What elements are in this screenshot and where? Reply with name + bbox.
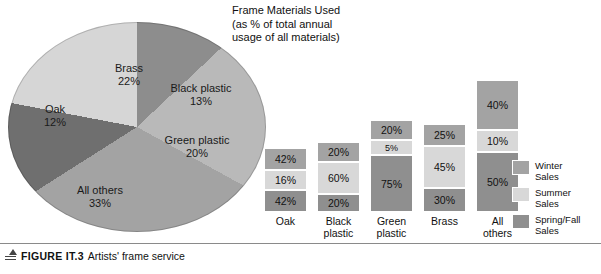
legend-label-summer: Summer Sales [535, 187, 571, 209]
legend-item-summer-sales: Summer Sales [512, 187, 598, 209]
bar-label-green-plastic-line1: Green [364, 215, 419, 227]
chart-title-line1: Frame Materials Used [232, 4, 408, 18]
legend-label-winter: Winter Sales [535, 160, 562, 182]
bar-column-black-plastic: 20% 60% 20% Black plastic [317, 142, 360, 212]
bar-label-oak-line1: Oak [258, 215, 313, 227]
bar-label-black-plastic: Black plastic [311, 215, 366, 239]
bar-segment-all-others-winter: 40% [476, 80, 519, 130]
bar-segment-green-plastic-summer: 5% [370, 140, 413, 155]
bar-segment-brass-springfall: 30% [423, 188, 466, 212]
legend-label-spring-fall-line1: Spring/Fall [535, 214, 580, 225]
bar-label-green-plastic-line2: plastic [364, 227, 419, 239]
pie-slice-label-green-plastic: Green plastic 20% [154, 134, 240, 160]
pie-label-black-plastic-value: 13% [158, 95, 244, 108]
pie-label-oak-value: 12% [30, 116, 80, 129]
bar-label-oak: Oak [258, 215, 313, 227]
bar-label-green-plastic: Green plastic [364, 215, 419, 239]
bar-segment-all-others-summer: 10% [476, 130, 519, 152]
figure-number: FIGURE IT.3 [21, 250, 84, 262]
figure-caption: FIGURE IT.3 Artists' frame service [4, 249, 185, 262]
bar-segment-brass-summer: 45% [423, 146, 466, 188]
pie-slice-label-brass: Brass 22% [94, 62, 164, 88]
bar-segment-brass-winter: 25% [423, 124, 466, 146]
chart-legend: Winter Sales Summer Sales Spring/Fall Sa… [512, 160, 598, 241]
pie-label-brass-value: 22% [94, 75, 164, 88]
bar-segment-oak-winter: 42% [264, 148, 307, 170]
pie-slice-label-oak: Oak 12% [30, 103, 80, 129]
figure-marker-icon [4, 249, 17, 262]
pie-label-green-plastic-text: Green plastic [165, 134, 230, 146]
bar-segment-green-plastic-springfall: 75% [370, 155, 413, 212]
pie-label-brass-text: Brass [115, 62, 143, 74]
bar-label-black-plastic-line1: Black [311, 215, 366, 227]
bar-label-brass: Brass [417, 215, 472, 227]
pie-label-oak-text: Oak [45, 103, 65, 115]
legend-swatch-winter-icon [512, 160, 530, 175]
bar-column-oak: 42% 16% 42% Oak [264, 148, 307, 212]
bar-column-brass: 25% 45% 30% Brass [423, 124, 466, 212]
bar-segment-oak-springfall: 42% [264, 190, 307, 212]
legend-label-summer-line2: Sales [535, 198, 559, 209]
legend-label-summer-line1: Summer [535, 187, 571, 198]
bar-segment-green-plastic-winter: 20% [370, 120, 413, 140]
legend-label-winter-line2: Sales [535, 171, 559, 182]
bar-segment-black-plastic-winter: 20% [317, 142, 360, 162]
legend-label-winter-line1: Winter [535, 160, 562, 171]
pie-label-all-others-text: All others [77, 184, 123, 196]
pie-label-black-plastic-text: Black plastic [170, 82, 231, 94]
bar-segment-black-plastic-summer: 60% [317, 162, 360, 194]
bar-segment-black-plastic-springfall: 20% [317, 194, 360, 212]
pie-slice-label-black-plastic: Black plastic 13% [158, 82, 244, 108]
legend-label-spring-fall: Spring/Fall Sales [535, 214, 580, 236]
legend-item-winter-sales: Winter Sales [512, 160, 598, 182]
bar-column-green-plastic: 20% 5% 75% Green plastic [370, 120, 413, 212]
legend-swatch-summer-icon [512, 187, 530, 202]
chart-title-line2: (as % of total annual [232, 18, 408, 32]
pie-chart: Brass 22% Black plastic 13% Green plasti… [8, 22, 266, 232]
bar-segment-oak-summer: 16% [264, 170, 307, 190]
legend-label-spring-fall-line2: Sales [535, 225, 559, 236]
footer-divider [0, 243, 601, 244]
figure-caption-text: Artists' frame service [88, 250, 185, 262]
stacked-bar-chart: 42% 16% 42% Oak 20% 60% 20% Black plasti… [258, 36, 506, 236]
bar-label-brass-line1: Brass [417, 215, 472, 227]
pie-label-all-others-value: 33% [60, 197, 140, 210]
bar-label-black-plastic-line2: plastic [311, 227, 366, 239]
figure-canvas: Brass 22% Black plastic 13% Green plasti… [0, 0, 601, 274]
pie-label-green-plastic-value: 20% [154, 147, 240, 160]
legend-item-spring-fall-sales: Spring/Fall Sales [512, 214, 598, 236]
legend-swatch-spring-fall-icon [512, 214, 530, 229]
pie-slice-label-all-others: All others 33% [60, 184, 140, 210]
